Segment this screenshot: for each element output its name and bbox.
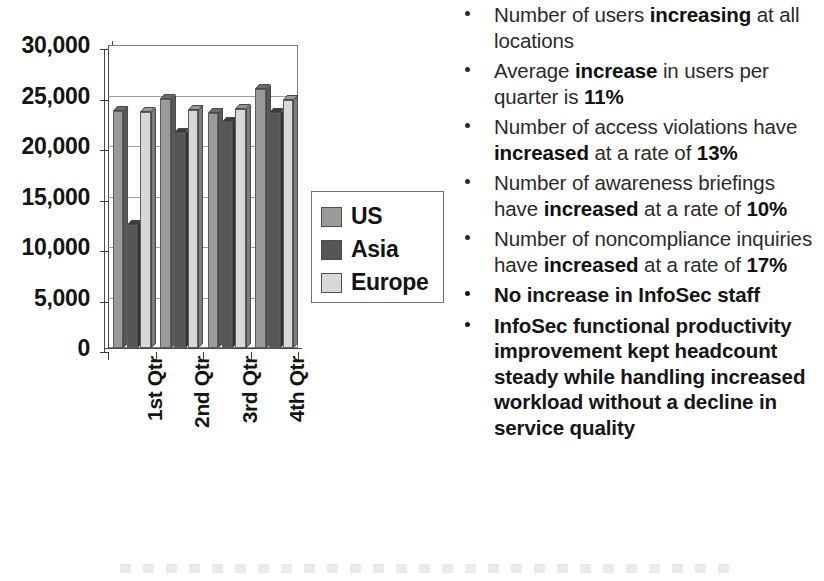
bullet-item: Number of awareness briefings have incre… [452,170,824,221]
bullet-item: InfoSec functional productivity improvem… [452,313,824,441]
bar [127,225,138,348]
bullet-text: Average [494,59,575,82]
bar-face [269,113,280,348]
x-tick-label: 2nd Qtr [190,356,214,428]
legend-swatch-icon [321,240,342,260]
bullet-text-bold: No increase in InfoSec staff [494,283,760,306]
bar [255,89,266,348]
x-tick-mark [108,352,109,360]
legend-swatch-icon [321,273,342,293]
bar-face [140,112,151,348]
bullet-item: Number of noncompliance inquiries have i… [452,226,824,277]
bullet-dot-icon [465,123,470,128]
x-tick-label: 3rd Qtr [238,356,262,423]
bullet-text: Number of users [494,3,650,26]
bullet-text-bold: 10% [746,197,787,220]
legend-item-europe[interactable]: Europe [321,266,443,299]
bullet-text-bold: 13% [697,141,738,164]
bar-side-face [198,105,203,348]
bullet-dot-icon [465,179,470,184]
legend-label: Europe [351,271,428,294]
x-axis-labels: 1st Qtr2nd Qtr3rd Qtr4th Qtr [108,352,298,467]
bullet-text-bold: 11% [584,85,624,108]
x-tick-mark [203,352,204,360]
bullet-text-bold: increasing [650,3,752,26]
bullet-text-bold: increased [544,253,639,276]
bar-face [235,109,246,348]
x-tick-mark [251,352,252,360]
x-tick-label: 1st Qtr [143,356,167,421]
bar-side-face [151,107,156,348]
bar-face [208,113,219,348]
bullet-item: Average increase in users per quarter is… [452,58,824,109]
bar [208,113,219,348]
chart-legend: USAsiaEurope [311,191,444,303]
bar-face [174,133,185,348]
bullet-text-bold: 17% [746,253,787,276]
bar-face [222,122,233,348]
bullet-dot-icon [465,11,470,16]
bar [222,122,233,348]
bar-face [127,225,138,348]
bar-face [283,100,294,348]
bullet-dot-icon [465,235,470,240]
bar [235,109,246,348]
bar [188,110,199,348]
bar [160,99,171,348]
bar-face [113,111,124,348]
bar-face [188,110,199,348]
bullet-text-bold: InfoSec functional productivity improvem… [494,314,805,439]
legend-item-asia[interactable]: Asia [321,233,443,266]
bar [283,100,294,348]
bar [113,111,124,348]
bullet-dot-icon [465,67,470,72]
bullet-text: at a rate of [589,141,697,164]
legend-item-us[interactable]: US [321,200,443,233]
scan-artifact [120,564,740,573]
x-tick-label: 4th Qtr [285,356,309,422]
bullet-item: Number of access violations have increas… [452,114,824,165]
bullet-text-bold: increase [575,59,657,82]
bar [269,113,280,348]
bullet-dot-icon [465,291,470,296]
bullet-dot-icon [465,322,470,327]
x-tick-mark [298,352,299,360]
bullet-text-bold: increased [494,141,589,164]
slide-canvas: 30,00025,00020,00015,00010,0005,0000 1st… [0,0,824,581]
bar-side-face [246,104,251,348]
bar [174,133,185,348]
bullet-text: at a rate of [638,197,746,220]
x-tick-mark [156,352,157,360]
bullet-list: Number of users increasing at all locati… [452,2,824,562]
bullet-item: No increase in InfoSec staff [452,282,824,308]
legend-label: Asia [351,238,398,261]
bullet-text: at a rate of [638,253,746,276]
bar-face [160,99,171,348]
bar-side-face [293,95,298,348]
bar [140,112,151,348]
bullet-text: Number of access violations have [494,115,797,138]
bullet-item: Number of users increasing at all locati… [452,2,824,53]
bar-chart: 30,00025,00020,00015,00010,0005,0000 1st… [0,0,448,470]
legend-swatch-icon [321,207,342,227]
bullet-text-bold: increased [544,197,639,220]
legend-label: US [351,205,382,228]
bar-face [255,89,266,348]
